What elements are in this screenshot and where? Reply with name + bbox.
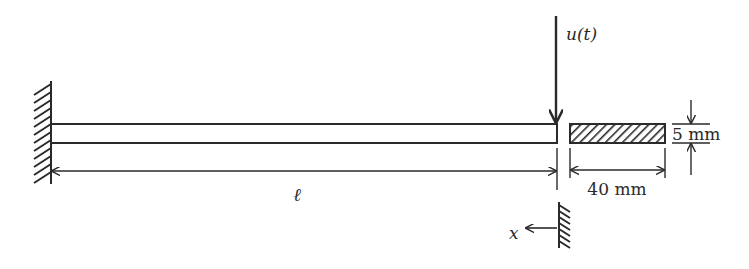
length-label: ℓ bbox=[293, 184, 301, 205]
beam bbox=[51, 124, 557, 143]
width-label: 40 mm bbox=[587, 179, 646, 199]
wall-hatching bbox=[34, 84, 51, 183]
cantilever-beam-diagram: u(t) ℓ 40 mm 5 mm x bbox=[0, 0, 749, 269]
cross-section bbox=[570, 124, 665, 143]
force-label: u(t) bbox=[566, 24, 597, 44]
sensor-wall-hatching bbox=[559, 205, 570, 248]
width-dimension bbox=[570, 148, 665, 178]
x-axis-label: x bbox=[509, 223, 519, 243]
thickness-label: 5 mm bbox=[672, 124, 720, 144]
fixed-support bbox=[34, 81, 51, 184]
length-dimension bbox=[52, 148, 557, 190]
sensor-wall bbox=[526, 202, 570, 248]
